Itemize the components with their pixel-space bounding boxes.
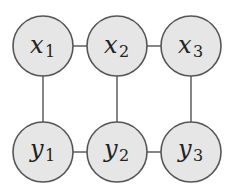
node-y1-label: y [29,135,44,163]
node-y2: y 2 [87,122,147,182]
node-x1: x 1 [13,16,73,76]
node-y3: y 3 [161,122,221,182]
node-x3-subscript: 3 [193,42,203,61]
node-y3-subscript: 3 [193,146,203,165]
grid-graph-diagram: x 1 x 2 x 3 y 1 y 2 y 3 [0,0,232,195]
node-x1-subscript: 1 [45,42,55,61]
node-x2-label: x [104,31,118,59]
node-x3: x 3 [161,16,221,76]
node-x3-label: x [178,31,192,59]
node-y2-subscript: 2 [119,146,129,165]
node-x1-label: x [30,31,44,59]
node-x2: x 2 [87,16,147,76]
node-y3-label: y [177,135,192,163]
node-y1: y 1 [13,122,73,182]
node-y1-subscript: 1 [45,146,55,165]
node-y2-label: y [103,135,118,163]
node-x2-subscript: 2 [119,42,129,61]
